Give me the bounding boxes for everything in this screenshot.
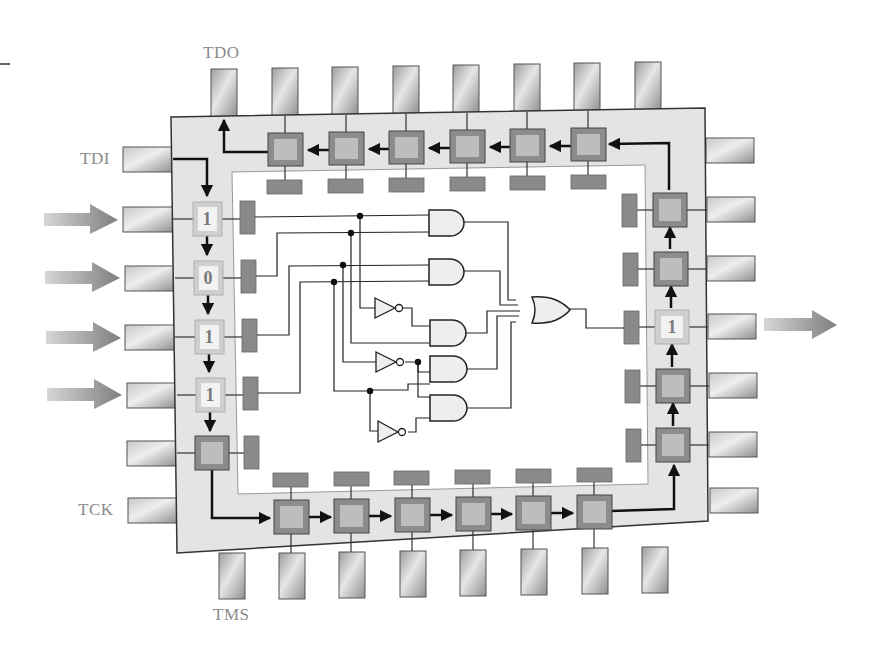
right-pins: [706, 138, 758, 513]
input-cell-value-4: 1: [197, 382, 223, 408]
boundary-scan-diagram: [0, 0, 879, 651]
output-cell-value: 1: [659, 314, 685, 340]
tdo-label: TDO: [203, 43, 239, 63]
input-cell-value-1: 1: [194, 206, 220, 232]
tdi-label: TDI: [80, 149, 110, 169]
left-pins: [123, 147, 178, 523]
output-arrow: [764, 310, 837, 339]
input-cell-value-2: 0: [195, 265, 221, 291]
top-pins: [211, 62, 661, 117]
input-arrows: [44, 204, 122, 409]
input-cell-value-3: 1: [196, 324, 222, 350]
bottom-pins: [219, 547, 668, 599]
tms-label: TMS: [213, 605, 249, 625]
tck-label: TCK: [78, 500, 114, 520]
